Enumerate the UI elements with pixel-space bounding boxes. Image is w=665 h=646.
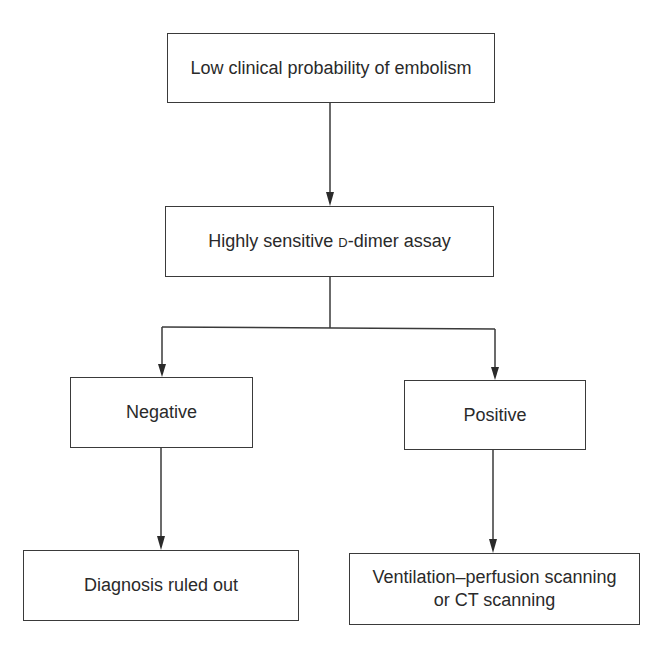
node-label: Low clinical probability of embolism — [190, 57, 471, 80]
edge-branch-bar — [162, 327, 495, 329]
node-label: Highly sensitive d-dimer assay — [208, 230, 450, 253]
arrowhead-icon — [491, 367, 499, 380]
node-label: Positive — [463, 404, 526, 427]
arrowhead-icon — [157, 536, 165, 550]
node-diagnosis-ruled-out: Diagnosis ruled out — [23, 550, 299, 621]
node-d-dimer-assay: Highly sensitive d-dimer assay — [165, 206, 494, 277]
node-label-line2: or CT scanning — [434, 589, 556, 612]
node-positive: Positive — [404, 380, 586, 450]
label-suffix: -dimer assay — [348, 231, 451, 251]
node-low-clinical-probability: Low clinical probability of embolism — [167, 33, 495, 103]
label-smallcaps: d — [338, 231, 347, 251]
label-prefix: Highly sensitive — [208, 231, 338, 251]
arrowhead-icon — [489, 539, 497, 553]
node-label: Diagnosis ruled out — [84, 574, 238, 597]
node-label: Negative — [126, 401, 197, 424]
arrowhead-icon — [158, 364, 166, 377]
node-negative: Negative — [70, 377, 253, 448]
node-vq-or-ct-scanning: Ventilation–perfusion scanning or CT sca… — [349, 553, 640, 625]
arrowhead-icon — [326, 192, 334, 206]
node-label-line1: Ventilation–perfusion scanning — [372, 566, 616, 589]
